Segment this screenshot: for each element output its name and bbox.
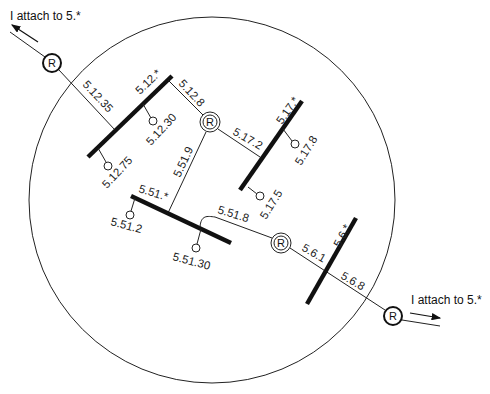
host-label: 5.12.30 bbox=[144, 111, 179, 147]
arrow-icon bbox=[12, 25, 38, 42]
port-stub bbox=[283, 129, 292, 141]
host-port-icon bbox=[104, 162, 112, 170]
link-5-6 bbox=[290, 248, 385, 310]
host-port-icon bbox=[192, 244, 200, 252]
network-boundary-circle bbox=[29, 17, 395, 383]
host-port-icon bbox=[149, 117, 157, 125]
external-link-line bbox=[402, 320, 440, 326]
host-port-icon bbox=[126, 211, 134, 219]
router-label: R bbox=[206, 116, 214, 128]
router-label: R bbox=[48, 57, 56, 69]
router-label: R bbox=[277, 237, 285, 249]
router-label: R bbox=[389, 310, 397, 322]
host-label: 5.12.35 bbox=[81, 78, 116, 114]
host-label: 5.51.8 bbox=[216, 203, 250, 224]
port-stub bbox=[143, 104, 151, 118]
subnet-label: 5.12.* bbox=[133, 67, 163, 97]
external-router-bottom: R I attach to 5.* bbox=[384, 293, 482, 326]
subnet-bar bbox=[131, 196, 231, 243]
subnet-5-17: 5.17.* 5.17.2 5.17.8 5.17.5 bbox=[231, 94, 320, 221]
port-stub bbox=[131, 198, 135, 211]
port-stub bbox=[197, 229, 201, 244]
external-router-top: R I attach to 5.* bbox=[10, 9, 115, 130]
arrow-icon bbox=[410, 313, 440, 318]
host-port-icon bbox=[291, 140, 299, 148]
external-note: I attach to 5.* bbox=[10, 9, 81, 23]
host-port-icon bbox=[256, 192, 264, 200]
port-stub bbox=[98, 148, 106, 162]
host-label: 5.51.30 bbox=[171, 250, 211, 272]
host-label: 5.17.8 bbox=[293, 134, 320, 167]
host-label: 5.6.1 bbox=[300, 241, 328, 264]
subnet-bar bbox=[88, 76, 172, 157]
host-label: 5.51.2 bbox=[109, 215, 143, 235]
external-note: I attach to 5.* bbox=[411, 293, 482, 307]
host-label: 5.17.2 bbox=[231, 125, 265, 151]
port-stub bbox=[248, 187, 257, 194]
subnet-5-12: 5.12.* 5.12.35 5.12.30 5.12.75 5.12.8 bbox=[81, 67, 208, 191]
network-diagram: R I attach to 5.* 5.12.* 5.12.35 5.12.30… bbox=[0, 0, 490, 394]
